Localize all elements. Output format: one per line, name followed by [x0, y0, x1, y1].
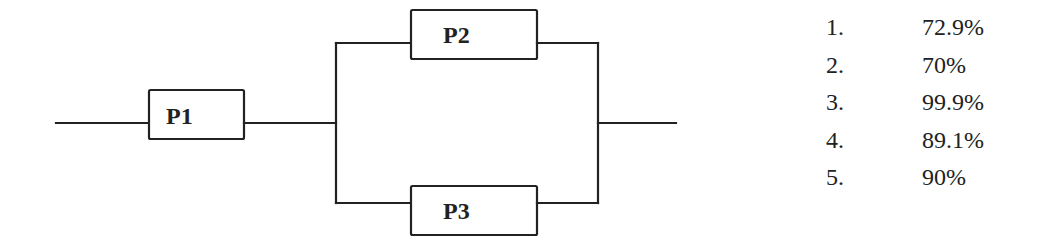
option-value: 99.9%	[922, 87, 984, 117]
block-p2	[411, 10, 537, 59]
option-number: 1.	[826, 12, 844, 42]
block-p3	[411, 186, 537, 235]
block-p2-label: P2	[443, 22, 470, 48]
option-value: 89.1%	[922, 125, 984, 155]
option-value: 90%	[922, 162, 966, 192]
block-p1	[149, 90, 244, 139]
option-number: 3.	[826, 87, 844, 117]
option-number: 4.	[826, 125, 844, 155]
option-value: 70%	[922, 50, 966, 80]
block-p1-label: P1	[166, 103, 193, 129]
option-number: 2.	[826, 50, 844, 80]
option-number: 5.	[826, 162, 844, 192]
block-p3-label: P3	[443, 198, 470, 224]
option-value: 72.9%	[922, 12, 984, 42]
reliability-diagram: P1 P2 P3	[0, 0, 700, 247]
